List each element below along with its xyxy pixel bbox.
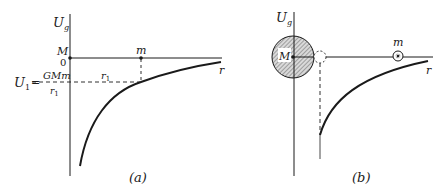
test-mass-label: m (136, 44, 146, 57)
panel-a: Ug M 0 m r1 U1 = GMm r1 r (a) (14, 14, 225, 185)
fraction-denominator: r1 (50, 86, 59, 98)
surface-mass-position (314, 51, 326, 63)
potential-curve (320, 61, 428, 135)
y-axis-label: Ug (276, 10, 292, 27)
equals-sign: = (31, 76, 40, 89)
origin-dot (68, 56, 72, 60)
caption-a: (a) (129, 170, 147, 185)
central-mass-label: M (278, 50, 291, 63)
panel-b: M Ug m r (b) (272, 10, 433, 185)
x-axis-label: r (426, 64, 432, 77)
energy-label: U1 (14, 75, 30, 92)
center-dot (291, 55, 295, 59)
fraction-numerator: GMm (43, 70, 71, 81)
x-axis-label: r (219, 64, 225, 77)
y-axis-label: Ug (53, 15, 69, 32)
zero-label: 0 (60, 57, 66, 68)
test-mass-label: m (393, 36, 403, 49)
gravitational-potential-diagram: Ug M 0 m r1 U1 = GMm r1 r (a) M (0, 0, 444, 191)
test-mass-dot (397, 55, 399, 57)
distance-label: r1 (101, 70, 110, 83)
caption-b: (b) (352, 170, 370, 185)
